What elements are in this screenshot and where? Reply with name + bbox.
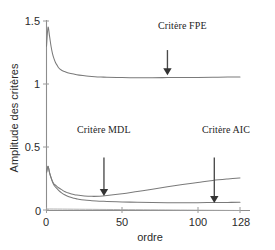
x-tick-label-50: 50 (116, 216, 128, 228)
x-axis-title: ordre (137, 231, 163, 243)
x-tick-label-128: 128 (232, 216, 250, 228)
y-tick-label-0: 0 (35, 205, 41, 217)
y-axis-title: Amplitude des critères (8, 63, 20, 172)
x-tick-label-100: 100 (189, 216, 207, 228)
y-tick-label-0-5: 0.5 (25, 141, 40, 153)
x-tick-label-0: 0 (43, 216, 49, 228)
arrow-fpe-head (163, 68, 171, 75)
y-tick-label-1: 1 (34, 78, 40, 90)
arrow-mdl-head (100, 189, 108, 196)
annotation-label-aic: Critère AIC (202, 124, 250, 135)
annotation-label-fpe: Critère FPE (158, 20, 207, 31)
figure-container: 1.5 1 0.5 0 0 50 100 128 ordre Amplitude… (0, 0, 275, 250)
arrow-aic-head (210, 196, 218, 203)
arrow-mdl (100, 157, 108, 196)
y-tick-label-1-5: 1.5 (25, 15, 40, 27)
annotation-label-mdl: Critère MDL (77, 124, 131, 135)
curve-fpe (47, 27, 241, 78)
curve-aic (47, 166, 241, 196)
arrow-fpe (163, 50, 171, 75)
